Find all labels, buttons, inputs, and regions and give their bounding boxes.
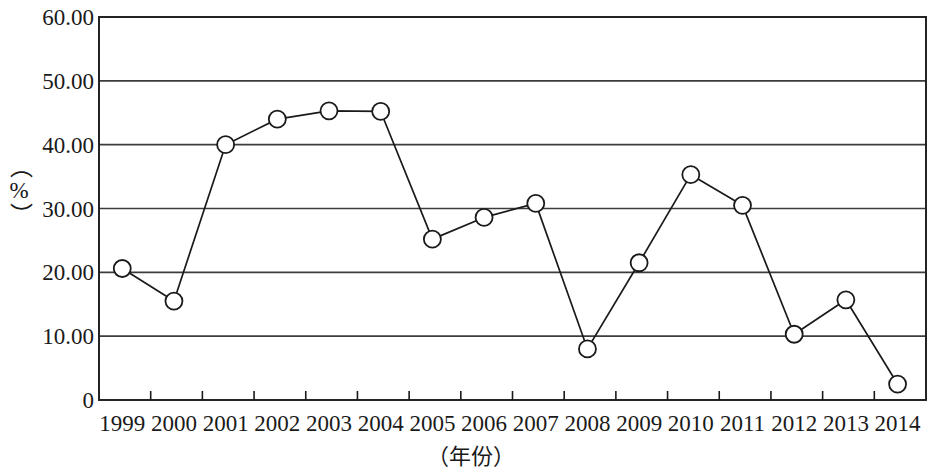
x-axis-title: （年份） (0, 446, 941, 468)
x-axis-tick-label: 2004 (358, 412, 404, 435)
data-point-marker (837, 291, 854, 308)
x-axis-tick-label: 2007 (513, 412, 559, 435)
data-point-marker (217, 136, 234, 153)
x-axis-tick-label: 2001 (203, 412, 249, 435)
x-axis-tick-label: 2014 (875, 412, 921, 435)
plot-area (0, 0, 941, 474)
x-axis-ticks (151, 391, 875, 400)
data-point-marker (269, 111, 286, 128)
data-point-marker (734, 197, 751, 214)
data-point-marker (579, 340, 596, 357)
data-point-marker (372, 103, 389, 120)
x-axis-tick-label: 2013 (823, 412, 869, 435)
x-axis-tick-label: 2009 (616, 412, 662, 435)
x-axis-tick-label: 2006 (461, 412, 507, 435)
data-point-marker (631, 254, 648, 271)
data-point-marker (114, 260, 131, 277)
data-point-marker (321, 102, 338, 119)
data-point-marker (476, 209, 493, 226)
x-axis-tick-label: 2012 (771, 412, 817, 435)
data-point-marker (889, 376, 906, 393)
data-point-marker (527, 195, 544, 212)
x-axis-tick-label: 1999 (99, 412, 145, 435)
x-axis-tick-label: 2003 (306, 412, 352, 435)
x-axis-tick-labels: 1999200020012002200320042005200620072008… (0, 412, 941, 442)
data-point-marker (165, 293, 182, 310)
line-chart: （%） 010.0020.0030.0040.0050.0060.00 1999… (0, 0, 941, 474)
data-point-marker (786, 326, 803, 343)
data-markers (114, 102, 906, 392)
x-axis-tick-label: 2008 (564, 412, 610, 435)
x-axis-tick-label: 2002 (254, 412, 300, 435)
series-line (122, 111, 897, 384)
data-point-marker (682, 166, 699, 183)
x-axis-tick-label: 2000 (151, 412, 197, 435)
gridlines (99, 81, 926, 336)
x-axis-tick-label: 2010 (668, 412, 714, 435)
data-point-marker (424, 231, 441, 248)
x-axis-tick-label: 2011 (720, 412, 765, 435)
data-line (122, 111, 897, 384)
x-axis-tick-label: 2005 (409, 412, 455, 435)
